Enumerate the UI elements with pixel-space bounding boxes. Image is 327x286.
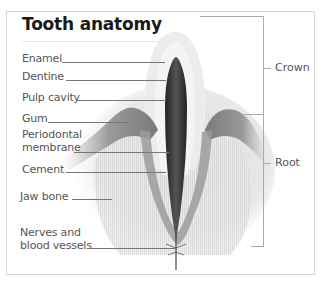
leader-gum	[48, 122, 128, 123]
leader-nerves	[88, 248, 176, 249]
crown-tick	[263, 68, 271, 69]
root-bracket-bottom	[251, 246, 263, 247]
diagram-title: Tooth anatomy	[22, 14, 162, 34]
crown-bracket-top	[200, 16, 264, 115]
title-underline	[22, 41, 160, 42]
leader-periodontal	[74, 152, 169, 153]
label-root: Root	[275, 156, 300, 169]
leader-cement	[66, 172, 166, 173]
root-tick	[263, 163, 271, 164]
label-nerves-line2: blood vessels	[20, 239, 92, 252]
leader-enamel	[62, 62, 165, 63]
label-cement: Cement	[22, 163, 64, 176]
crown-root-divider	[244, 114, 263, 115]
label-pulp-cavity: Pulp cavity	[22, 91, 80, 104]
label-periodontal-line2: membrane	[22, 141, 81, 154]
label-crown: Crown	[275, 61, 310, 74]
label-dentine: Dentine	[22, 70, 64, 83]
label-periodontal-line1: Periodontal	[22, 128, 82, 141]
label-jaw-bone: Jaw bone	[20, 190, 68, 203]
leader-pulp-cavity	[76, 100, 166, 101]
leader-dentine	[66, 80, 166, 81]
leader-jaw-bone	[72, 199, 112, 200]
label-enamel: Enamel	[22, 52, 62, 65]
label-nerves-line1: Nerves and	[20, 226, 81, 239]
bracket-vertical	[263, 16, 264, 247]
label-gum: Gum	[22, 112, 48, 125]
